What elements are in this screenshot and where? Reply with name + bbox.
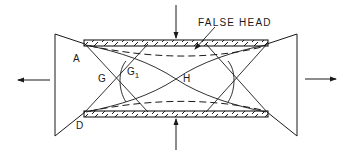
false-head-label: FALSE HEAD [198, 17, 272, 28]
top-hatched-plate [84, 40, 268, 46]
point-g-label: G [98, 73, 106, 84]
point-g1-label: G1 [127, 66, 140, 80]
point-h-label: H [183, 73, 190, 84]
bottom-hatched-plate [84, 111, 268, 117]
diagram-svg: FALSE HEAD A D G G1 H [0, 0, 350, 156]
solid-slip-curves [86, 45, 266, 112]
g1-arcs [120, 61, 234, 102]
point-a-label: A [73, 53, 80, 64]
diagram-figure: FALSE HEAD A D G G1 H [0, 0, 350, 156]
right-wedge [267, 34, 297, 136]
straight-slip-lines [85, 44, 267, 112]
g1-subscript: 1 [135, 71, 140, 80]
point-d-label: D [76, 120, 83, 131]
